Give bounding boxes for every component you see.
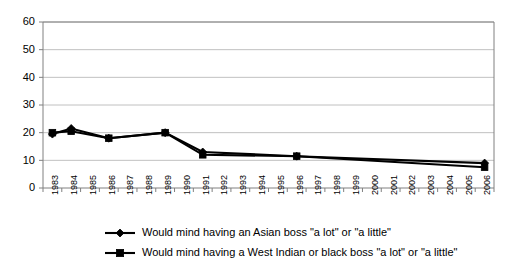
x-tick-label-2002: 2002: [407, 175, 417, 195]
x-tick-label-1998: 1998: [332, 175, 342, 195]
chart-canvas: 0102030405060 19831984198519861987198819…: [0, 0, 520, 276]
x-tick-label-1999: 1999: [351, 175, 361, 195]
x-tick-label-2006: 2006: [482, 175, 492, 195]
data-point-marker: [49, 129, 56, 136]
x-tick-label-2000: 2000: [370, 175, 380, 195]
y-tick-label-40: 40: [23, 71, 35, 83]
x-tick-label-1995: 1995: [276, 175, 286, 195]
x-tick-label-1992: 1992: [219, 175, 229, 195]
data-point-marker: [68, 128, 75, 135]
x-tick-label-2003: 2003: [426, 175, 436, 195]
line-chart: 0102030405060 19831984198519861987198819…: [0, 0, 520, 276]
x-tick-label-1990: 1990: [182, 175, 192, 195]
data-point-marker: [199, 152, 206, 159]
x-tick-label-1983: 1983: [50, 175, 60, 195]
legend-label-0: Would mind having an Asian boss "a lot" …: [142, 226, 391, 238]
x-tick-label-1984: 1984: [69, 175, 79, 195]
data-point-marker: [105, 135, 112, 142]
data-point-marker: [481, 164, 488, 171]
x-tick-label-1986: 1986: [107, 175, 117, 195]
y-tick-label-10: 10: [23, 154, 35, 166]
x-tick-label-1994: 1994: [257, 175, 267, 195]
x-tick-label-1988: 1988: [144, 175, 154, 195]
y-tick-label-50: 50: [23, 43, 35, 55]
x-tick-label-1985: 1985: [88, 175, 98, 195]
x-tick-label-1996: 1996: [295, 175, 305, 195]
data-point-marker: [293, 153, 300, 160]
x-tick-label-1997: 1997: [313, 175, 323, 195]
legend-label-1: Would mind having a West Indian or black…: [142, 246, 458, 258]
data-point-marker: [162, 129, 169, 136]
y-tick-label-20: 20: [23, 126, 35, 138]
y-tick-label-60: 60: [23, 15, 35, 27]
y-tick-label-30: 30: [23, 98, 35, 110]
x-tick-label-1993: 1993: [238, 175, 248, 195]
x-tick-label-1991: 1991: [201, 175, 211, 195]
x-tick-label-2004: 2004: [445, 175, 455, 195]
x-tick-label-2001: 2001: [389, 175, 399, 195]
x-tick-label-1989: 1989: [163, 175, 173, 195]
x-tick-label-2005: 2005: [464, 175, 474, 195]
y-tick-label-0: 0: [29, 181, 35, 193]
legend-marker-square-icon: [116, 249, 123, 256]
x-tick-label-1987: 1987: [125, 175, 135, 195]
